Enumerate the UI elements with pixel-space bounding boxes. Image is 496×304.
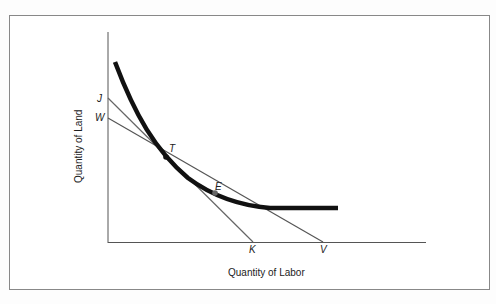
label-j: J [96, 93, 103, 104]
y-axis-label: Quantity of Land [73, 110, 84, 183]
isocost-line-wv [108, 118, 323, 242]
isoquant-diagram: J W T E K V Quantity of Labor Quantity o… [0, 0, 496, 304]
point-t [163, 154, 169, 160]
label-k: K [249, 244, 257, 255]
label-v: V [320, 244, 328, 255]
label-e: E [215, 181, 222, 192]
label-w: W [95, 112, 106, 123]
label-t: T [169, 143, 176, 154]
x-axis-label: Quantity of Labor [228, 267, 305, 278]
